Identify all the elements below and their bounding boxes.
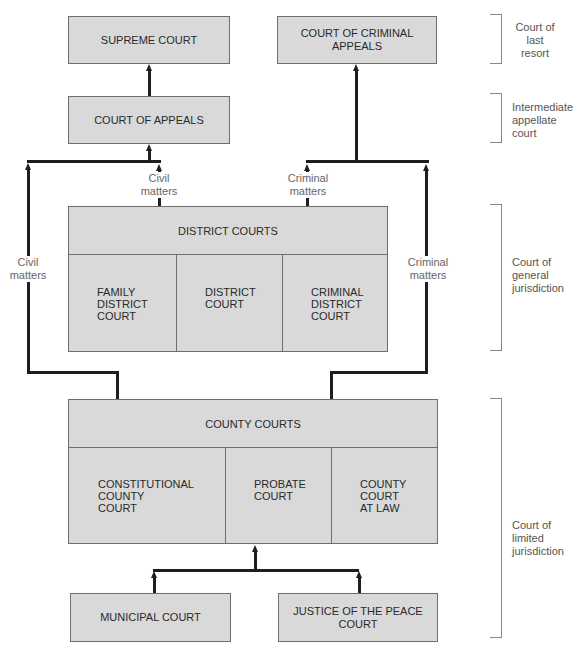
flow-label-line: matters [281,185,335,198]
tier-label-line: jurisdiction [512,282,580,295]
flow-label-line: matters [136,185,182,198]
tier-label-line: Court of [506,21,564,34]
divider [282,255,283,352]
bracket-limited-jurisdiction [490,398,502,638]
cell-line: COURT [254,490,306,502]
connector-lower-to-county [254,551,257,571]
divider [176,255,177,352]
connector-criminal-right-bottom [330,371,428,374]
bracket-general-jurisdiction [490,204,502,351]
district-courts-box: DISTRICT COURTS FAMILY DISTRICT COURT DI… [68,206,388,352]
supreme-court-label: SUPREME COURT [101,34,197,47]
bracket-last-resort [490,14,502,64]
connector-civil-to-appeals [148,150,151,162]
tier-label-intermediate-appellate: Intermediate appellate court [512,101,580,140]
flow-label-line: Criminal [281,172,335,185]
district-court-cell: DISTRICT COURT [205,249,281,346]
cell-line: COURT [311,310,364,322]
tier-label-line: last [506,34,564,47]
flow-label-line: Criminal [400,256,456,269]
tier-label-line: Court of [512,519,580,532]
justice-of-the-peace-court-box: JUSTICE OF THE PEACE COURT [278,593,438,642]
tier-label-line: general [512,269,580,282]
tier-label-general-jurisdction: Court of general jurisdiction [512,256,580,295]
divider [331,448,332,544]
tier-label-line: court [512,127,580,140]
cell-line: CONSTITUTIONAL [98,478,194,490]
county-courts-title: COUNTY COURTS [205,418,301,431]
cell-line: COURT [205,298,256,310]
cell-line: COUNTY [98,490,194,502]
tier-label-line: appellate [512,114,580,127]
tier-label-line: resort [506,47,564,60]
cell-line: DISTRICT [97,298,148,310]
arrow-up-icon [356,571,362,578]
connector-jp-up [358,577,361,593]
county-courts-box: COUNTY COURTS CONSTITUTIONAL COUNTY COUR… [68,399,438,544]
cell-line: DISTRICT [205,286,256,298]
civil-matters-center-label: Civil matters [136,172,182,198]
tier-label-line: limited [512,532,580,545]
criminal-district-court-cell: CRIMINAL DISTRICT COURT [311,255,387,352]
arrow-up-icon [25,163,31,170]
jp-court-line-1: JUSTICE OF THE PEACE [293,605,422,618]
tier-label-last-resort: Court of last resort [506,21,564,60]
criminal-matters-right-label: Criminal matters [400,256,456,282]
court-of-criminal-appeals-box: COURT OF CRIMINAL APPEALS [277,16,437,64]
arrow-up-icon [146,144,152,151]
connector-civil-left-bottom [27,371,119,374]
connector-municipal-up [153,577,156,593]
arrow-up-icon [146,64,152,71]
tier-label-line: Intermediate [512,101,580,114]
tier-label-limited-jurisdiction: Court of limited jurisdiction [512,519,580,558]
connector-criminal-to-criminal-appeals [355,70,358,162]
tier-label-line: jurisdiction [512,545,580,558]
cell-line: FAMILY [97,286,148,298]
bracket-intermediate-appellate [490,93,502,143]
supreme-court-box: SUPREME COURT [68,16,230,64]
constitutional-county-court-cell: CONSTITUTIONAL COUNTY COURT [98,448,224,544]
cell-line: COURT [97,310,148,322]
court-of-appeals-box: COURT OF APPEALS [68,96,230,144]
connector-appeals-to-supreme [148,70,151,96]
cell-line: COURT [360,490,406,502]
flow-label-line: matters [6,269,50,282]
divider [225,448,226,544]
district-courts-title: DISTRICT COURTS [178,225,278,238]
criminal-appeals-line-2: APPEALS [332,40,382,53]
cell-line: COUNTY [360,478,406,490]
arrow-up-icon [252,545,258,552]
flow-label-line: Civil [6,256,50,269]
county-courts-header: COUNTY COURTS [69,400,437,448]
flow-label-line: Civil [136,172,182,185]
connector-lower-horizontal [153,569,359,572]
arrow-up-icon [304,164,310,171]
connector-civil-left-into-county [116,371,119,399]
tier-label-line: Court of [512,256,580,269]
criminal-matters-center-label: Criminal matters [281,172,335,198]
cell-line: DISTRICT [311,298,364,310]
jp-court-line-2: COURT [339,618,378,631]
arrow-up-icon [353,64,359,71]
connector-criminal-horizontal [306,160,429,163]
criminal-appeals-line-1: COURT OF CRIMINAL [301,27,414,40]
arrow-up-icon [423,164,429,171]
civil-matters-left-label: Civil matters [6,256,50,282]
connector-criminal-right-into-county [330,371,333,399]
municipal-court-box: MUNICIPAL COURT [70,593,231,642]
court-of-appeals-label: COURT OF APPEALS [94,114,204,127]
cell-line: CRIMINAL [311,286,364,298]
family-district-court-cell: FAMILY DISTRICT COURT [97,255,175,352]
cell-line: COURT [98,502,194,514]
cell-line: PROBATE [254,478,306,490]
arrow-up-icon [151,571,157,578]
county-court-at-law-cell: COUNTY COURT AT LAW [360,448,436,544]
district-courts-header: DISTRICT COURTS [69,207,387,255]
connector-civil-horizontal [27,160,161,163]
probate-court-cell: PROBATE COURT [254,442,330,538]
municipal-court-label: MUNICIPAL COURT [100,611,201,624]
cell-line: AT LAW [360,502,406,514]
arrow-up-icon [156,164,162,171]
flow-label-line: matters [400,269,456,282]
